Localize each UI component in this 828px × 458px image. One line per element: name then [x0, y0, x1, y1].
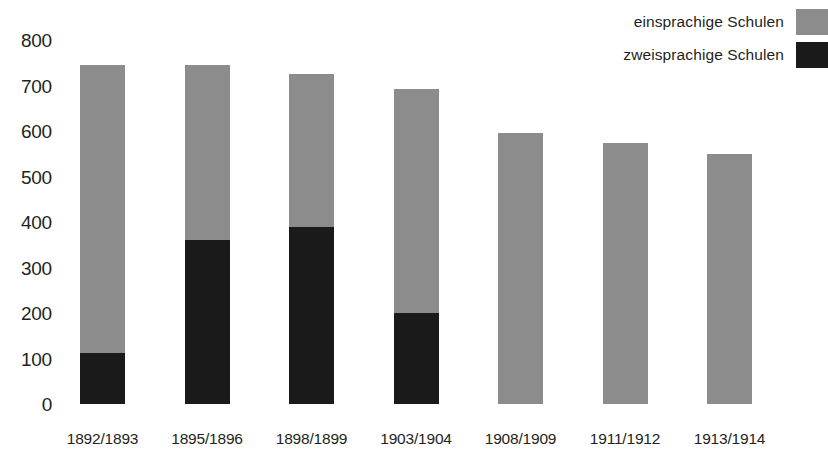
- bar-segment-einsprachige: [394, 89, 439, 313]
- bar-group: [80, 0, 125, 458]
- x-tick-label: 1892/1893: [48, 430, 158, 448]
- x-tick-label: 1913/1914: [675, 430, 785, 448]
- bar-segment-zweisprachige: [185, 240, 230, 404]
- bar-group: [394, 0, 439, 458]
- bar-segment-einsprachige: [707, 154, 752, 404]
- bar-segment-zweisprachige: [289, 227, 334, 404]
- legend-swatch-zweisprachige-schulen: [796, 42, 828, 68]
- bar-stack: [498, 133, 543, 404]
- x-tick-label: 1908/1909: [466, 430, 576, 448]
- bar-stack: [707, 154, 752, 404]
- bar-segment-einsprachige: [498, 133, 543, 404]
- bar-segment-einsprachige: [185, 65, 230, 240]
- bar-stack: [185, 65, 230, 404]
- bar-stack: [80, 65, 125, 404]
- x-tick-label: 1903/1904: [361, 430, 471, 448]
- bar-group: [498, 0, 543, 458]
- x-tick-label: 1895/1896: [152, 430, 262, 448]
- bar-segment-zweisprachige: [394, 313, 439, 404]
- stacked-bar-chart: 0100200300400500600700800 1892/18931895/…: [0, 0, 828, 458]
- bar-stack: [603, 143, 648, 404]
- bar-segment-einsprachige: [289, 74, 334, 227]
- bar-segment-einsprachige: [80, 65, 125, 353]
- x-tick-label: 1898/1899: [257, 430, 367, 448]
- bar-stack: [289, 74, 334, 404]
- bar-group: [289, 0, 334, 458]
- bar-stack: [394, 89, 439, 404]
- bar-segment-einsprachige: [603, 143, 648, 404]
- legend-item-zweisprachige-schulen: zweisprachige Schulen: [568, 42, 828, 68]
- x-tick-label: 1911/1912: [570, 430, 680, 448]
- bar-group: [185, 0, 230, 458]
- legend-label-einsprachige-schulen: einsprachige Schulen: [634, 12, 784, 32]
- legend-swatch-einsprachige-schulen: [796, 9, 828, 35]
- bar-segment-zweisprachige: [80, 353, 125, 404]
- chart-legend: einsprachige Schulen zweisprachige Schul…: [568, 0, 828, 78]
- legend-item-einsprachige-schulen: einsprachige Schulen: [568, 9, 828, 35]
- legend-label-zweisprachige-schulen: zweisprachige Schulen: [623, 45, 784, 65]
